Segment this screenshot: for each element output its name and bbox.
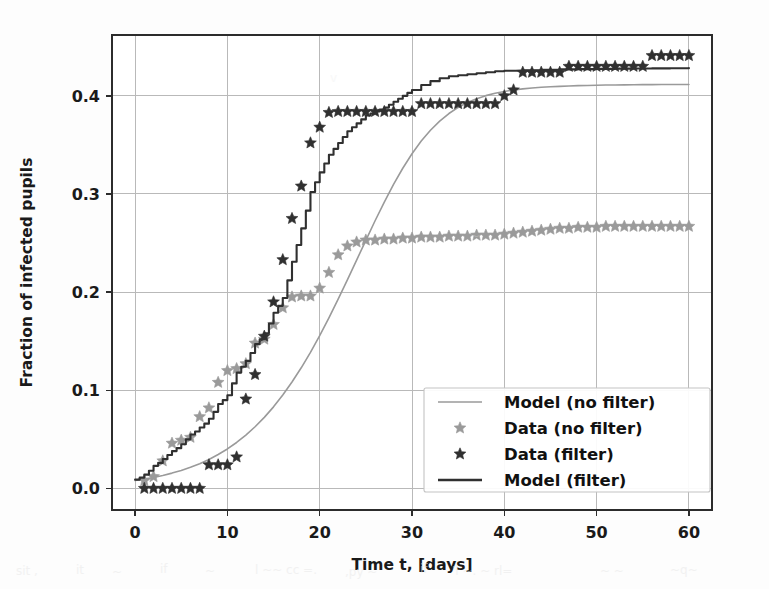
infection-fraction-line-chart: 0102030405060 0.00.10.20.30.4 Time t, [d… [0,0,769,589]
svg-text:if: if [420,562,428,576]
svg-text:~: ~ [112,565,122,579]
x-tick-label: 40 [493,523,515,542]
legend-label: Data (filter) [504,445,614,464]
svg-text:v: v [330,71,337,85]
svg-text:~: ~ [470,229,480,243]
legend-label: Model (no filter) [504,393,655,412]
legend-label: Data (no filter) [504,419,643,438]
chart-figure: 0102030405060 0.00.10.20.30.4 Time t, [d… [0,0,769,589]
svg-text:it: it [76,563,84,577]
svg-text:~: ~ [205,564,215,578]
svg-text:~ ~: ~ ~ [600,564,624,578]
x-tick-label: 60 [678,523,700,542]
svg-text:l ~~ cc =.: l ~~ cc =. [255,563,317,577]
y-tick-label: 0.3 [72,185,100,204]
x-tick-label: 30 [401,523,423,542]
x-tick-label: 50 [585,523,607,542]
svg-text:if: if [160,562,168,576]
y-tick-label: 0.0 [72,479,100,498]
legend-label: Model (filter) [504,471,626,490]
svg-text:sit ,: sit , [16,564,38,578]
x-tick-label: 10 [216,523,238,542]
x-tick-label: 0 [130,523,141,542]
y-tick-label: 0.2 [72,283,100,302]
x-tick-label: 20 [309,523,331,542]
y-axis-label: Fraction of infected pupils [18,158,36,388]
y-tick-label: 0.4 [72,87,100,106]
svg-text:'l ~. ~ rl=: 'l ~. ~ rl= [452,564,512,578]
svg-text:,py ~: ,py ~ [345,565,377,579]
svg-text:~q~: ~q~ [670,563,698,577]
y-tick-label: 0.1 [72,381,100,400]
chart-legend[interactable]: Model (no filter)Data (no filter)Data (f… [424,388,710,492]
